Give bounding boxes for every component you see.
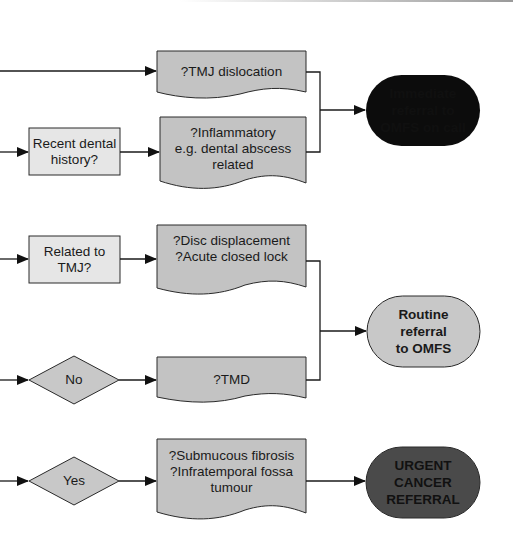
- doc-disc-label: ?Disc displacement ?Acute closed lock: [157, 225, 306, 273]
- doc-tmd-label: ?TMD: [157, 357, 306, 403]
- connector-group2: [306, 261, 320, 380]
- decision-recent-dental-label: Recent dental history?: [29, 128, 120, 175]
- doc-inflammatory-label: ?Inflammatory e.g. dental abscess relate…: [160, 117, 306, 181]
- terminal-routine-label: Routine referral to OMFS: [367, 296, 480, 367]
- terminal-urgent-label: URGENT CANCER REFERRAL: [366, 447, 480, 518]
- connector-group1: [306, 72, 320, 152]
- doc-tmj-dislocation-label: ?TMJ dislocation: [157, 51, 306, 93]
- doc-submucous-label: ?Submucous fibrosis ?Infratemporal fossa…: [157, 443, 306, 501]
- diamond-no-label: No: [29, 356, 119, 404]
- diamond-yes-label: Yes: [29, 457, 119, 505]
- decision-related-tmj-label: Related to TMJ?: [29, 236, 120, 283]
- terminal-immediate-label: Immediate referral to OMFS on call: [366, 75, 480, 146]
